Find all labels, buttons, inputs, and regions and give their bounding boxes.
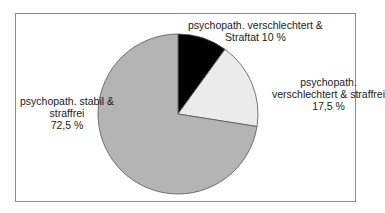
pie-slices xyxy=(98,34,258,194)
label-verschlechtert-straftat: psychopath. verschlechtert & Straftat 10… xyxy=(188,19,323,43)
label-line: 72,5 % xyxy=(20,119,114,131)
label-line: psychopath. xyxy=(272,76,385,88)
label-line: Straftat 10 % xyxy=(188,31,323,43)
label-line: psychopath. verschlechtert & xyxy=(188,19,323,31)
label-line: straffrei xyxy=(20,107,114,119)
label-line: 17,5 % xyxy=(272,100,385,112)
label-verschlechtert-straffrei: psychopath. verschlechtert & straffrei 1… xyxy=(272,76,385,112)
label-line: psychopath. stabil & xyxy=(20,95,114,107)
label-line: verschlechtert & straffrei xyxy=(272,88,385,100)
label-stabil-straffrei: psychopath. stabil & straffrei 72,5 % xyxy=(20,95,114,131)
